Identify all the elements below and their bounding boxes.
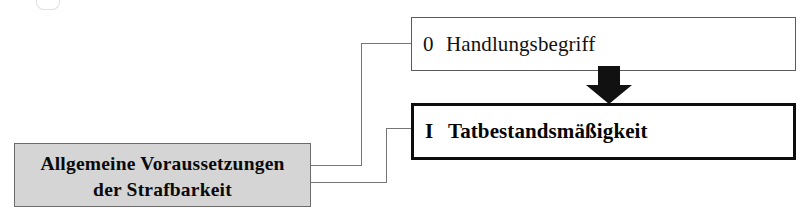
node-allgemeine-voraussetzungen-label: Allgemeine Voraussetzungen der Strafbark…	[15, 144, 310, 203]
node-handlungsbegriff-label: Handlungsbegriff	[446, 32, 595, 57]
arrow-down-icon	[586, 66, 632, 104]
node-tatbestandsmaessigkeit-numeral: I	[414, 119, 448, 144]
scan-artifact	[36, 0, 60, 10]
connector-root-to-tatbestandsmaessigkeit-segment-v	[386, 128, 387, 183]
node-handlungsbegriff[interactable]: 0 Handlungsbegriff	[411, 17, 796, 71]
connector-root-to-handlungsbegriff-segment-v	[361, 43, 362, 166]
node-allgemeine-voraussetzungen[interactable]: Allgemeine Voraussetzungen der Strafbark…	[14, 143, 311, 207]
node-handlungsbegriff-numeral: 0	[412, 32, 446, 57]
connector-root-to-tatbestandsmaessigkeit-segment-h2	[386, 128, 413, 129]
connector-root-to-handlungsbegriff-segment-h1	[311, 165, 362, 166]
connector-root-to-tatbestandsmaessigkeit-segment-h1	[311, 182, 387, 183]
diagram-canvas: 0 Handlungsbegriff I Tatbestandsmäßigkei…	[0, 0, 808, 215]
node-allgemeine-voraussetzungen-label-line1: Allgemeine Voraussetzungen	[40, 153, 284, 174]
node-allgemeine-voraussetzungen-label-line2: der Strafbarkeit	[15, 177, 310, 203]
node-tatbestandsmaessigkeit-label: Tatbestandsmäßigkeit	[448, 119, 648, 144]
node-tatbestandsmaessigkeit[interactable]: I Tatbestandsmäßigkeit	[411, 103, 796, 160]
connector-root-to-handlungsbegriff-segment-h2	[361, 43, 412, 44]
